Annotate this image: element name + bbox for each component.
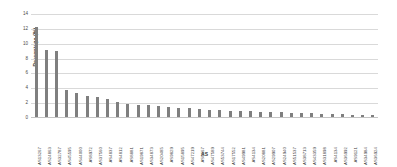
bar (45, 50, 48, 118)
bar (116, 102, 119, 118)
x-axis-title: AS (31, 151, 378, 157)
bars-layer (31, 14, 378, 118)
y-tick-label: 14 (14, 12, 28, 17)
bar (75, 93, 78, 118)
bar (86, 96, 89, 118)
bar (137, 105, 140, 118)
bar (96, 97, 99, 118)
y-tick-label: 4 (14, 86, 28, 91)
y-tick-label: 0 (14, 116, 28, 121)
y-axis-tick-labels: 02468101214 (14, 10, 28, 118)
bar (65, 90, 68, 118)
bar (126, 104, 129, 118)
bar-chart: Percentage (%) 02468101214 AS13267AS2486… (0, 0, 397, 167)
x-axis-line (31, 117, 378, 118)
y-tick-label: 12 (14, 27, 28, 32)
bar (35, 27, 38, 118)
bar (106, 99, 109, 118)
plot-area (31, 14, 378, 118)
x-axis-tick-labels: AS13267AS24863AS32787AS45595AS44000AS897… (31, 119, 378, 149)
y-tick-label: 6 (14, 71, 28, 76)
y-tick-label: 8 (14, 56, 28, 61)
y-tick-label: 10 (14, 41, 28, 46)
y-tick-label: 2 (14, 101, 28, 106)
bar (55, 51, 58, 118)
